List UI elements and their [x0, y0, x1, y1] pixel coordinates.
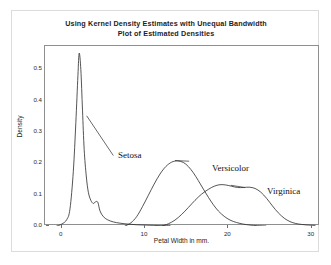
y-tick-label: 0.0	[20, 222, 42, 228]
x-tick-label: 10	[141, 230, 148, 237]
y-tick-label: 0.2	[20, 159, 42, 165]
chart-subtitle: Plot of Estimated Densities	[12, 29, 320, 39]
x-tick-label: 0	[59, 230, 62, 237]
annotation-leader-lines	[87, 116, 245, 188]
chart-title: Using Kernel Density Estimates with Uneq…	[12, 19, 320, 29]
annotation-setosa: Setosa	[118, 150, 142, 160]
annotation-versicolor: Versicolor	[212, 163, 249, 173]
x-tick-mark	[144, 225, 145, 228]
cut-off-text-sliver: · ·· ·· ·· ·· ·· · ·· ·· ··· ·· ·	[0, 0, 331, 6]
chart-page-panel: Using Kernel Density Estimates with Uneq…	[11, 10, 319, 252]
chart-title-block: Using Kernel Density Estimates with Uneq…	[12, 19, 320, 39]
y-tick-label: 0.5	[20, 65, 42, 71]
plot-area	[44, 45, 319, 225]
x-tick-mark	[311, 225, 312, 228]
y-tick-label: 0.3	[20, 128, 42, 134]
y-tick-label: 0.1	[20, 191, 42, 197]
leader-line-setosa	[87, 116, 114, 156]
y-axis-label: Density	[16, 107, 23, 147]
x-tick-mark	[61, 225, 62, 228]
x-tick-mark	[227, 225, 228, 228]
density-curve-setosa	[57, 53, 170, 226]
x-axis-label: Petal Width in mm.	[44, 237, 319, 244]
x-tick-label: 20	[224, 230, 231, 237]
y-tick-label: 0.4	[20, 97, 42, 103]
x-tick-label: 30	[307, 230, 314, 237]
curve-group	[57, 53, 315, 226]
cut-off-text: · ·· ·· ·· ·· ·· · ·· ·· ··· ·· ·	[0, 0, 331, 4]
annotation-virginica: Virginica	[267, 186, 300, 196]
density-curves-svg	[45, 46, 320, 226]
